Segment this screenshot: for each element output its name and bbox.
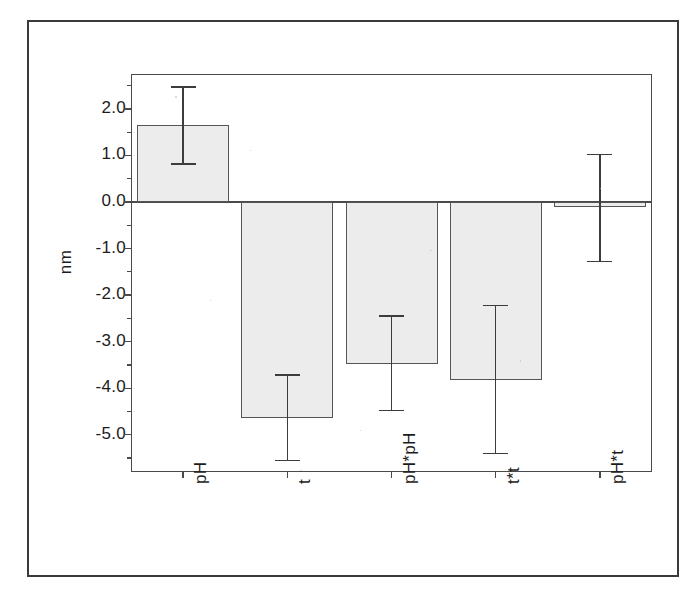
x-tick-label: t	[295, 479, 315, 484]
error-bar-line	[287, 375, 288, 460]
scan-speckle	[300, 470, 302, 471]
error-bar-cap-lower	[379, 410, 404, 412]
bar-chart: nm 2.01.00.0-1.0-2.0-3.0-4.0-5.0 pHtpH*p…	[0, 0, 697, 596]
error-bar-cap-upper	[171, 86, 196, 88]
y-tick-minor	[127, 457, 132, 458]
y-tick-label: -4.0	[68, 377, 126, 397]
error-bar-cap-upper	[379, 315, 404, 317]
error-bar-line	[495, 305, 496, 453]
y-tick-major	[124, 434, 132, 435]
error-bar-cap-lower	[587, 261, 612, 263]
y-tick-label: -3.0	[68, 331, 126, 351]
scan-speckle	[600, 188, 601, 189]
scan-speckle	[175, 96, 177, 98]
y-tick-label: -2.0	[68, 284, 126, 304]
error-bar-line	[182, 87, 183, 164]
x-tick	[182, 472, 183, 478]
y-tick-minor	[127, 318, 132, 319]
y-tick-major	[124, 108, 132, 109]
error-bar-cap-lower	[171, 163, 196, 165]
error-bar-cap-upper	[275, 374, 300, 376]
error-bar-cap-upper	[483, 305, 508, 307]
y-tick-label: 1.0	[68, 144, 126, 164]
y-tick-label: -5.0	[68, 424, 126, 444]
x-tick	[391, 472, 392, 478]
x-tick	[287, 472, 288, 478]
x-tick-label: t*t	[504, 467, 524, 484]
y-tick-major	[124, 294, 132, 295]
y-tick-minor	[127, 271, 132, 272]
error-bar-cap-lower	[275, 460, 300, 462]
error-bar-line	[391, 316, 392, 410]
y-tick-label: -1.0	[68, 238, 126, 258]
y-tick-major	[124, 248, 132, 249]
y-tick-minor	[127, 364, 132, 365]
error-bar-line	[599, 155, 600, 262]
y-tick-major	[124, 388, 132, 389]
y-tick-minor	[127, 411, 132, 412]
y-tick-minor	[127, 85, 132, 86]
scan-speckle	[360, 430, 361, 431]
x-tick	[495, 472, 496, 478]
x-tick-label: pH*pH	[400, 432, 420, 484]
error-bar-cap-upper	[587, 154, 612, 156]
y-axis-tick-labels: 2.01.00.0-1.0-2.0-3.0-4.0-5.0	[60, 0, 126, 596]
y-tick-label: 0.0	[68, 191, 126, 211]
y-tick-major	[124, 341, 132, 342]
error-bar-cap-lower	[483, 453, 508, 455]
x-tick-label: pH	[191, 462, 211, 484]
scan-speckle	[430, 250, 432, 251]
x-tick	[599, 472, 600, 478]
scan-speckle	[250, 150, 251, 151]
y-tick-minor	[127, 178, 132, 179]
y-tick-major	[124, 155, 132, 156]
y-tick-minor	[127, 132, 132, 133]
y-tick-minor	[127, 225, 132, 226]
scan-speckle	[210, 300, 211, 301]
y-tick-label: 2.0	[68, 98, 126, 118]
x-tick-label: pH*t	[608, 450, 628, 484]
scan-speckle	[520, 360, 521, 362]
